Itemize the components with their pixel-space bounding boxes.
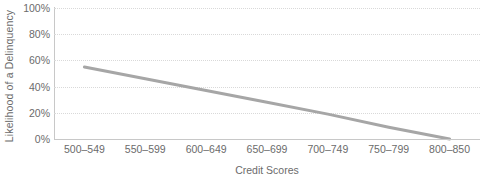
x-tick-label: 650–699 [247, 143, 288, 155]
y-tick-label: 60% [2, 54, 50, 66]
x-tick-label: 500–549 [64, 143, 105, 155]
y-tick-label: 0% [2, 133, 50, 145]
x-axis-tick-labels: 500–549550–599600–649650–699700–749750–7… [54, 143, 480, 161]
x-tick-label: 550–599 [125, 143, 166, 155]
y-tick-label: 100% [2, 2, 50, 14]
y-tick-label: 80% [2, 28, 50, 40]
x-axis-title: Credit Scores [54, 164, 480, 176]
y-tick-label: 20% [2, 107, 50, 119]
series-line-delinquency [54, 8, 480, 139]
plot-area [54, 8, 480, 139]
x-axis-line [54, 139, 480, 140]
chart-container: Likelihood of a Delinquency 0%20%40%60%8… [0, 0, 489, 184]
y-axis-tick-labels: 0%20%40%60%80%100% [0, 0, 50, 184]
x-tick-label: 600–649 [186, 143, 227, 155]
x-tick-label: 750–799 [368, 143, 409, 155]
x-tick-label: 700–749 [307, 143, 348, 155]
series-polyline [84, 67, 449, 139]
x-tick-label: 800–850 [429, 143, 470, 155]
y-tick-label: 40% [2, 81, 50, 93]
